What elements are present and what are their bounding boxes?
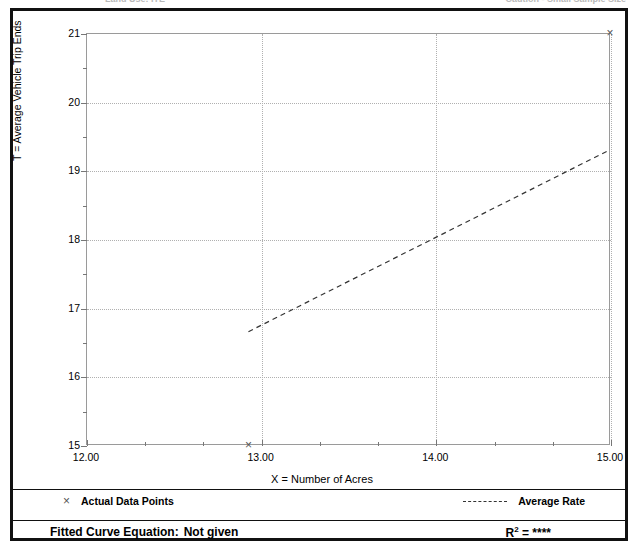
y-axis-tick-label: 17 — [68, 302, 80, 314]
gridline-horizontal — [87, 240, 611, 241]
y-axis-tick-label: 20 — [68, 96, 80, 108]
header-right-text: Caution - Small Sample Size — [505, 0, 626, 4]
y-axis-tick-label: 18 — [68, 233, 80, 245]
dashed-line-icon — [463, 501, 507, 502]
x-axis-minor-tick — [203, 442, 204, 446]
gridline-horizontal — [87, 377, 611, 378]
legend-item-actual-data-points: × Actual Data Points — [63, 495, 174, 507]
legend-label-actual-data-points: Actual Data Points — [81, 495, 174, 507]
y-axis-minor-tick — [83, 274, 87, 275]
y-axis-title: T = Average Vehicle Trip Ends — [11, 1, 23, 161]
plot-panel: ×× — [86, 33, 610, 445]
r-squared-statistic: R2 = **** — [506, 525, 552, 540]
y-axis-minor-tick — [83, 137, 87, 138]
figure-frame: 15161718192021 T = Average Vehicle Trip … — [10, 8, 628, 541]
x-axis-tick — [262, 440, 263, 446]
x-axis-minor-tick — [495, 442, 496, 446]
y-axis-minor-tick — [83, 343, 87, 344]
y-axis-tick-label: 15 — [68, 439, 80, 451]
header-left-text: Land Use: ITE — [105, 0, 165, 4]
y-axis-minor-tick — [83, 412, 87, 413]
x-axis-tick — [611, 440, 612, 446]
legend-label-average-rate: Average Rate — [518, 495, 585, 507]
x-axis-tick — [436, 440, 437, 446]
y-axis-tick — [81, 34, 87, 35]
y-axis-tick — [81, 377, 87, 378]
chart-legend: × Actual Data Points Average Rate — [13, 490, 625, 520]
y-axis-tick — [81, 446, 87, 447]
r-squared-equals: = — [519, 526, 533, 540]
gridline-horizontal — [87, 309, 611, 310]
x-axis-minor-tick — [553, 442, 554, 446]
x-axis-tick-label: 12.00 — [73, 451, 99, 463]
r-squared-label: R — [506, 526, 515, 540]
chart-footer: Fitted Curve Equation:Not given R2 = ***… — [13, 521, 625, 544]
fitted-curve-label: Fitted Curve Equation: — [50, 525, 179, 539]
y-axis-minor-tick — [83, 68, 87, 69]
gridline-vertical — [611, 34, 612, 446]
plot-area — [86, 33, 610, 445]
x-axis-title: X = Number of Acres — [13, 473, 631, 485]
y-axis-tick-label: 16 — [68, 370, 80, 382]
x-axis-tick-label: 15.00 — [597, 451, 623, 463]
x-axis-tick-label: 13.00 — [248, 451, 274, 463]
gridline-horizontal — [87, 103, 611, 104]
y-axis-tick-label: 21 — [68, 27, 80, 39]
cross-marker-icon: × — [63, 495, 70, 507]
x-axis-minor-tick — [320, 442, 321, 446]
x-axis-tick-label: 14.00 — [422, 451, 448, 463]
x-axis-minor-tick — [145, 442, 146, 446]
legend-item-average-rate: Average Rate — [463, 495, 585, 507]
r-squared-value: **** — [532, 526, 551, 540]
data-point-marker: × — [243, 440, 254, 451]
x-axis-tick — [87, 440, 88, 446]
x-axis-minor-tick — [378, 442, 379, 446]
gridline-horizontal — [87, 171, 611, 172]
y-axis-tick — [81, 309, 87, 310]
y-axis-tick-labels: 15161718192021 — [48, 33, 80, 445]
y-axis-tick-label: 19 — [68, 164, 80, 176]
y-axis-minor-tick — [83, 206, 87, 207]
y-axis-tick — [81, 103, 87, 104]
y-axis-tick — [81, 171, 87, 172]
data-point-marker: × — [605, 28, 616, 39]
y-axis-tick — [81, 240, 87, 241]
fitted-curve-equation: Fitted Curve Equation:Not given — [50, 525, 238, 539]
x-axis-tick-labels: 12.0013.0014.0015.00 — [86, 451, 610, 467]
fitted-curve-value: Not given — [179, 525, 239, 539]
